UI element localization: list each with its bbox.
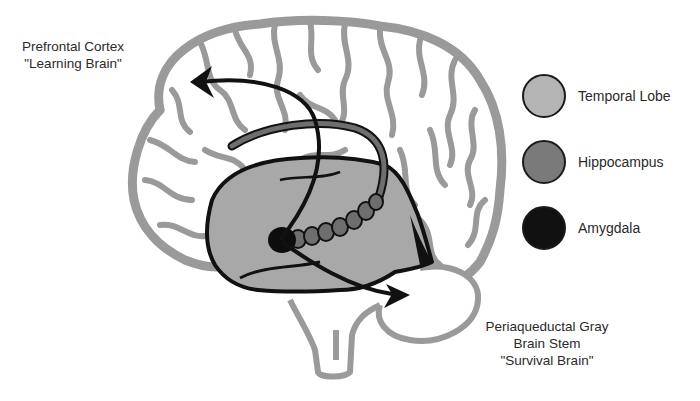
brain-stem-title: Brain Stem xyxy=(462,335,632,352)
legend-label: Amygdala xyxy=(578,220,640,236)
legend-item-hippocampus: Hippocampus xyxy=(520,140,700,188)
brain-diagram: Prefrontal Cortex "Learning Brain" Peria… xyxy=(0,0,700,401)
periaqueductal-gray-title: Periaqueductal Gray xyxy=(462,318,632,335)
brain-stem xyxy=(290,300,380,377)
survival-brain-subtitle: "Survival Brain" xyxy=(462,352,632,369)
prefrontal-cortex-label: Prefrontal Cortex "Learning Brain" xyxy=(22,38,124,72)
hippocampus-swatch-icon xyxy=(522,140,566,184)
legend-item-temporal-lobe: Temporal Lobe xyxy=(520,74,700,122)
amygdala-swatch-icon xyxy=(522,206,566,250)
prefrontal-cortex-title: Prefrontal Cortex xyxy=(22,38,124,55)
legend-item-amygdala: Amygdala xyxy=(520,206,700,254)
brainstem-label: Periaqueductal Gray Brain Stem "Survival… xyxy=(462,318,632,369)
temporal-lobe-swatch-icon xyxy=(522,74,566,118)
legend-label: Temporal Lobe xyxy=(578,88,671,104)
prefrontal-cortex-subtitle: "Learning Brain" xyxy=(22,55,124,72)
legend-label: Hippocampus xyxy=(578,154,664,170)
